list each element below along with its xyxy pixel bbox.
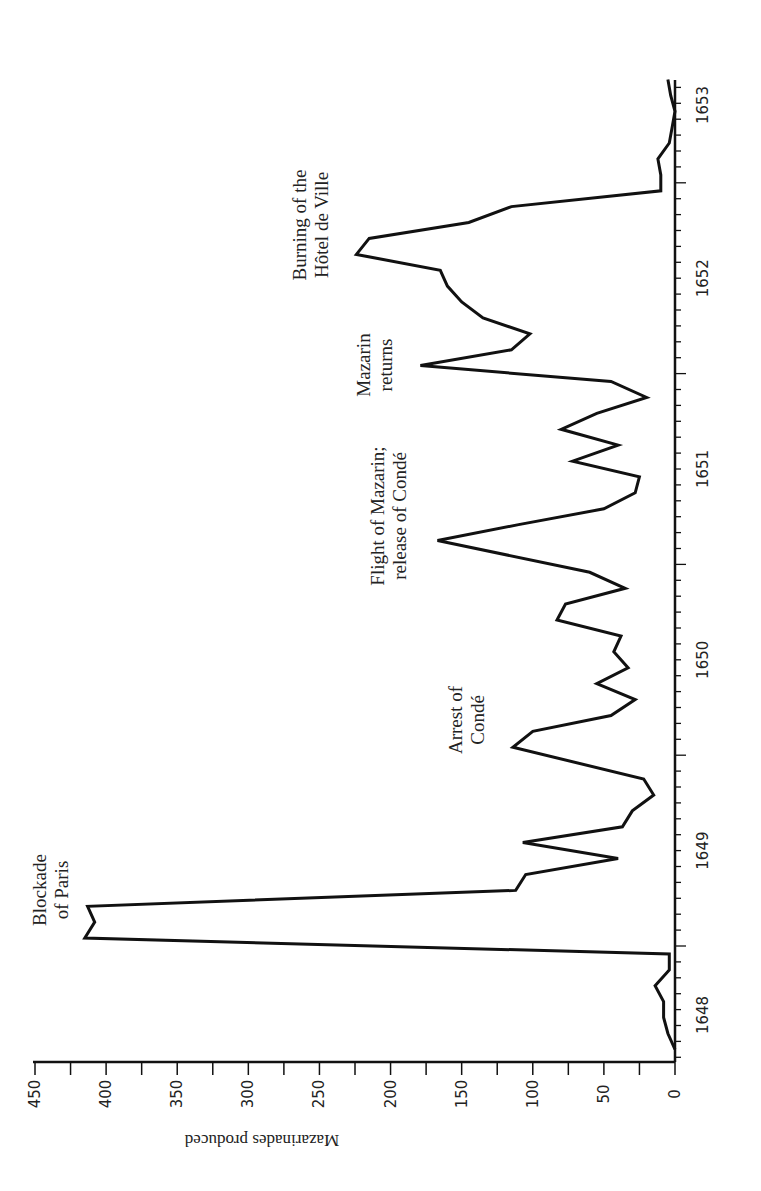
- time-axis-tick-label: 1653: [694, 86, 712, 124]
- time-axis-tick-label: 1648: [694, 996, 712, 1034]
- annotation-burning-line1: Burning of the: [289, 170, 310, 281]
- value-axis-tick-label: 400: [97, 1080, 115, 1109]
- annotation-returns: Mazarin returns: [353, 333, 396, 397]
- annotation-blockade-line2: of Paris: [51, 861, 72, 920]
- time-axis-tick-label: 1652: [694, 259, 712, 297]
- value-axis-tick-label: 100: [524, 1080, 542, 1109]
- annotation-arrest-line2: Condé: [467, 695, 488, 745]
- time-axis-tick-label: 1651: [694, 450, 712, 488]
- annotation-burning-line2: Hôtel de Ville: [311, 172, 332, 278]
- annotation-blockade-line1: Blockade: [29, 854, 50, 926]
- value-axis-tick-label: 350: [168, 1080, 186, 1109]
- y-axis-title: Mazarinades produced: [184, 1131, 339, 1150]
- time-axis-tick-label: 1649: [694, 832, 712, 870]
- value-axis-tick-label: 300: [239, 1080, 257, 1109]
- value-axis-tick-label: 200: [382, 1080, 400, 1109]
- annotation-arrest-line1: Arrest of: [445, 685, 466, 754]
- annotation-blockade: Blockade of Paris: [29, 854, 72, 926]
- annotation-arrest: Arrest of Condé: [445, 685, 488, 754]
- annotation-flight-line2: release of Condé: [389, 452, 410, 580]
- value-axis-tick-label: 50: [595, 1084, 613, 1103]
- value-axis-tick-label: 250: [310, 1080, 328, 1109]
- mazarinades-line-chart: 0501001502002503003504004501648164916501…: [0, 0, 761, 1191]
- axes: 0501001502002503003504004501648164916501…: [26, 80, 712, 1108]
- value-axis-tick-label: 150: [453, 1080, 471, 1109]
- value-axis-tick-label: 0: [666, 1089, 684, 1099]
- value-axis-tick-label: 450: [26, 1080, 44, 1109]
- annotation-flight: Flight of Mazarin; release of Condé: [367, 446, 410, 585]
- annotation-returns-line1: Mazarin: [353, 333, 374, 397]
- time-axis-tick-label: 1650: [694, 641, 712, 679]
- annotation-burning: Burning of the Hôtel de Ville: [289, 170, 332, 281]
- annotation-flight-line1: Flight of Mazarin;: [367, 446, 388, 585]
- annotation-returns-line2: returns: [375, 339, 396, 392]
